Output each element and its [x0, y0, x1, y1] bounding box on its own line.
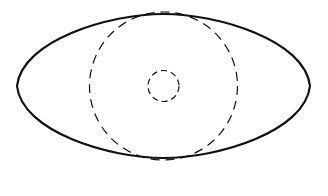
small-dashed-circle — [148, 71, 179, 102]
eye-lens-diagram — [0, 0, 328, 196]
large-dashed-circle — [90, 12, 238, 160]
outer-lens-outline — [17, 14, 310, 158]
